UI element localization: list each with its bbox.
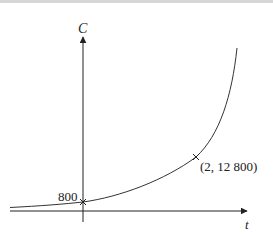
- y-axis-label: C: [78, 22, 87, 36]
- exponential-curve: [10, 48, 237, 208]
- point-label: (2, 12 800): [200, 160, 257, 173]
- intercept-label: 800: [58, 190, 78, 203]
- point-marker: [193, 154, 199, 160]
- x-axis-label: t: [245, 218, 249, 231]
- chart-plot: [0, 0, 273, 235]
